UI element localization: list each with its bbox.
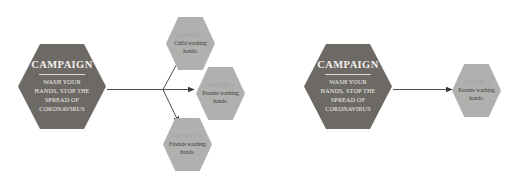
advert-node-3[interactable]: ADVERT 3 Friends washing hands. (163, 118, 212, 171)
campaign-title: CAMPAIGN (317, 59, 378, 73)
campaign-node[interactable]: CAMPAIGN WASH YOUR HANDS, STOP THE SPREA… (18, 44, 106, 129)
diagram-campaign-one-advert: CAMPAIGN WASH YOUR HANDS, STOP THE SPREA… (264, 0, 528, 181)
advert-body: Friends washing hands. (166, 140, 209, 156)
campaign-title-divider (39, 74, 85, 75)
advert-body: Parents washing hands. (199, 89, 242, 105)
advert-body: Child washing hands. (169, 39, 212, 55)
advert-title: ADVERT 1 (463, 79, 490, 85)
advert-node-1[interactable]: ADVERT 1 Child washing hands. (166, 17, 215, 70)
campaign-subtitle: WASH YOUR HANDS, STOP THE SPREAD OF CORO… (317, 78, 379, 114)
advert-node-2[interactable]: ADVERT 2 Parents washing hands. (196, 67, 245, 120)
campaign-title-divider (325, 74, 371, 75)
advert-node-1[interactable]: ADVERT 1 Parents washing hands. (452, 64, 501, 117)
connector-to-advert-3 (163, 90, 179, 124)
campaign-title: CAMPAIGN (31, 59, 92, 73)
campaign-subtitle: WASH YOUR HANDS, STOP THE SPREAD OF CORO… (31, 78, 93, 114)
advert-title: ADVERT 1 (177, 32, 204, 38)
advert-title: ADVERT 3 (174, 133, 201, 139)
advert-body: Parents washing hands. (455, 86, 498, 102)
advert-title: ADVERT 2 (207, 82, 234, 88)
diagram-campaign-three-adverts: CAMPAIGN WASH YOUR HANDS, STOP THE SPREA… (0, 0, 264, 181)
campaign-node[interactable]: CAMPAIGN WASH YOUR HANDS, STOP THE SPREA… (304, 44, 392, 129)
